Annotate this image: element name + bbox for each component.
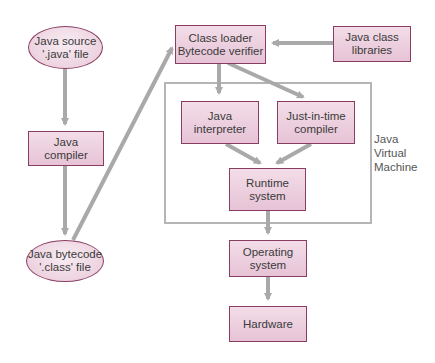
- node-java-source-line2: '.java' file: [34, 48, 96, 61]
- arrow-classloader-to-jit: [228, 63, 303, 97]
- node-runtime-system: Runtime system: [229, 168, 306, 211]
- node-hardware-line1: Hardware: [243, 318, 293, 331]
- jvm-label-line3: Machine: [374, 160, 417, 174]
- node-operating-system-line2: system: [243, 259, 294, 272]
- node-operating-system: Operating system: [229, 240, 307, 277]
- node-java-interpreter-line2: interpreter: [194, 123, 246, 136]
- node-java-interpreter: Java interpreter: [181, 101, 259, 144]
- node-java-compiler-line2: compiler: [44, 149, 87, 162]
- node-runtime-system-line2: system: [246, 190, 289, 203]
- node-java-source: Java source '.java' file: [28, 26, 103, 69]
- node-hardware: Hardware: [229, 306, 307, 342]
- node-jit-compiler: Just-in-time compiler: [277, 101, 355, 144]
- node-java-bytecode: Java bytecode '.class' file: [26, 240, 104, 282]
- arrow-interpreter-to-runtime: [226, 144, 260, 163]
- node-java-class-libraries-line2: libraries: [345, 44, 399, 57]
- node-java-class-libraries: Java class libraries: [333, 26, 411, 62]
- jvm-label-line1: Java: [374, 132, 417, 146]
- node-jit-compiler-line2: compiler: [286, 123, 345, 136]
- node-java-interpreter-line1: Java: [194, 110, 246, 123]
- node-class-loader: Class loader Bytecode verifier: [175, 25, 266, 64]
- node-java-bytecode-line1: Java bytecode: [28, 248, 102, 261]
- node-java-source-line1: Java source: [34, 35, 96, 48]
- node-class-loader-line2: Bytecode verifier: [178, 45, 264, 58]
- node-class-loader-line1: Class loader: [178, 32, 264, 45]
- node-jit-compiler-line1: Just-in-time: [286, 110, 345, 123]
- jvm-label-line2: Virtual: [374, 146, 417, 160]
- node-java-compiler: Java compiler: [28, 131, 104, 166]
- node-java-compiler-line1: Java: [44, 136, 87, 149]
- node-java-bytecode-line2: '.class' file: [28, 261, 102, 274]
- arrow-jit-to-runtime: [277, 144, 311, 163]
- node-runtime-system-line1: Runtime: [246, 177, 289, 190]
- jvm-group-label: Java Virtual Machine: [374, 132, 417, 174]
- node-operating-system-line1: Operating: [243, 246, 294, 259]
- node-java-class-libraries-line1: Java class: [345, 31, 399, 44]
